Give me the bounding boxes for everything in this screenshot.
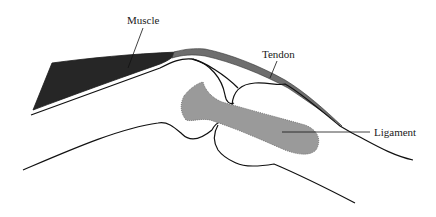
lower-skin-line bbox=[23, 123, 212, 170]
muscle-shape bbox=[33, 52, 178, 110]
tendon-label: Tendon bbox=[262, 48, 295, 60]
ligament-label: Ligament bbox=[374, 126, 416, 138]
joint-diagram: Muscle Tendon Ligament bbox=[0, 0, 436, 217]
muscle-label: Muscle bbox=[127, 14, 160, 26]
